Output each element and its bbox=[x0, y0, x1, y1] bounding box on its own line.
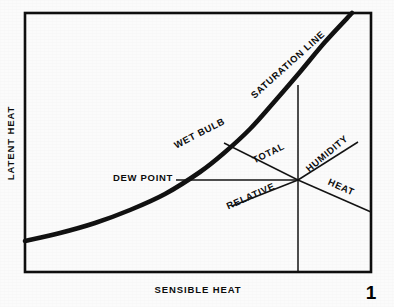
label-total: TOTAL bbox=[251, 140, 287, 165]
x-axis-label: SENSIBLE HEAT bbox=[154, 284, 241, 295]
y-axis-label: LATENT HEAT bbox=[5, 106, 16, 180]
label-dew-point: DEW POINT bbox=[113, 172, 173, 183]
chart-annotation-layer: SATURATION LINEWET BULBDEW POINTTOTALHUM… bbox=[113, 28, 357, 211]
label-humidity: HUMIDITY bbox=[303, 133, 350, 175]
chart-series-layer bbox=[25, 13, 371, 272]
psychrometric-chart: SATURATION LINEWET BULBDEW POINTTOTALHUM… bbox=[0, 0, 394, 307]
label-relative: RELATIVE bbox=[225, 180, 277, 211]
label-wet-bulb: WET BULB bbox=[172, 115, 227, 150]
figure-page: SATURATION LINEWET BULBDEW POINTTOTALHUM… bbox=[0, 0, 394, 307]
page-number: 1 bbox=[366, 282, 377, 303]
